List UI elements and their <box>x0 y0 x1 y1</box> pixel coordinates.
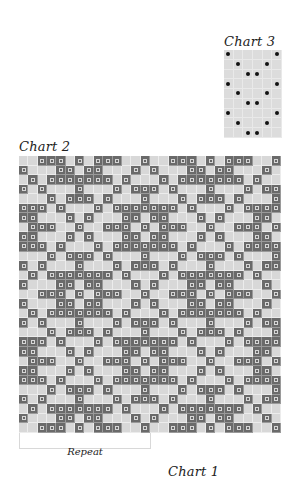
chart-2-cell <box>38 166 47 176</box>
chart-2-symbol-cell <box>56 242 65 252</box>
chart-2-symbol-cell <box>38 423 47 433</box>
chart-2-symbol-cell <box>234 385 243 395</box>
chart-2-symbol-cell <box>178 271 187 281</box>
chart-3-dot-cell <box>272 109 282 119</box>
chart-2-symbol-cell <box>94 299 103 309</box>
chart-2-symbol-cell <box>66 366 75 376</box>
chart-3-dot-cell <box>243 99 253 109</box>
chart-2-symbol-cell <box>197 347 206 357</box>
chart-2-symbol-cell <box>66 252 75 262</box>
chart-2-cell <box>103 414 112 424</box>
chart-2-cell <box>103 376 112 386</box>
chart-2-symbol-cell <box>225 290 234 300</box>
chart-2-cell <box>169 404 178 414</box>
chart-2-symbol-cell <box>75 252 84 262</box>
chart-2-symbol-cell <box>178 385 187 395</box>
chart-2-symbol-cell <box>187 423 196 433</box>
chart-2-cell <box>206 204 215 214</box>
chart-2-cell <box>206 280 215 290</box>
chart-2-symbol-cell <box>206 252 215 262</box>
chart-2-cell <box>122 299 131 309</box>
chart-2-cell <box>234 414 243 424</box>
chart-2-cell <box>272 347 281 357</box>
chart-2-symbol-cell <box>225 376 234 386</box>
chart-2-symbol-cell <box>84 175 93 185</box>
chart-2-cell <box>206 232 215 242</box>
chart-2-cell <box>215 318 224 328</box>
chart-2-cell <box>103 318 112 328</box>
chart-2-symbol-cell <box>262 280 271 290</box>
chart-2-symbol-cell <box>234 156 243 166</box>
chart-2-cell <box>234 185 243 195</box>
chart-2-cell <box>169 328 178 338</box>
chart-2-symbol-cell <box>187 280 196 290</box>
chart-2-cell <box>253 252 262 262</box>
chart-2-cell <box>150 252 159 262</box>
chart-2-cell <box>103 280 112 290</box>
chart-2-symbol-cell <box>84 299 93 309</box>
chart-2-cell <box>47 242 56 252</box>
chart-2-symbol-cell <box>94 175 103 185</box>
chart-2-symbol-cell <box>38 318 47 328</box>
chart-2-symbol-cell <box>169 223 178 233</box>
chart-2-symbol-cell <box>47 328 56 338</box>
chart-2-cell <box>272 414 281 424</box>
chart-2-symbol-cell <box>159 366 168 376</box>
chart-3-cell <box>234 70 244 80</box>
chart-2-cell <box>122 318 131 328</box>
chart-2-symbol-cell <box>38 185 47 195</box>
chart-2-symbol-cell <box>75 404 84 414</box>
chart-2-symbol-cell <box>66 299 75 309</box>
chart-2-cell <box>19 290 28 300</box>
chart-2-symbol-cell <box>141 242 150 252</box>
chart-2-symbol-cell <box>187 376 196 386</box>
chart-2-symbol-cell <box>103 290 112 300</box>
chart-2-cell <box>28 290 37 300</box>
repeat-label: Repeat <box>19 446 151 457</box>
chart-2-symbol-cell <box>234 404 243 414</box>
chart-2-symbol-cell <box>38 376 47 386</box>
chart-2-symbol-cell <box>75 194 84 204</box>
chart-2-cell <box>150 290 159 300</box>
chart-2-symbol-cell <box>178 194 187 204</box>
chart-2-cell <box>225 318 234 328</box>
chart-2-cell <box>113 175 122 185</box>
chart-2-symbol-cell <box>215 271 224 281</box>
chart-3-cell <box>234 128 244 138</box>
chart-2-symbol-cell <box>187 299 196 309</box>
chart-2-cell <box>234 166 243 176</box>
chart-2-symbol-cell <box>272 185 281 195</box>
chart-2-cell <box>159 299 168 309</box>
chart-2-cell <box>178 414 187 424</box>
chart-2-cell <box>215 223 224 233</box>
chart-2-symbol-cell <box>19 337 28 347</box>
chart-2-cell <box>131 223 140 233</box>
chart-2-cell <box>159 414 168 424</box>
chart-2-symbol-cell <box>103 423 112 433</box>
chart-2-symbol-cell <box>206 404 215 414</box>
chart-2-cell <box>122 385 131 395</box>
chart-2-cell <box>244 252 253 262</box>
chart-2-cell <box>66 242 75 252</box>
chart-2-symbol-cell <box>84 213 93 223</box>
chart-2-symbol-cell <box>215 309 224 319</box>
chart-2-symbol-cell <box>215 252 224 262</box>
chart-2-cell <box>225 385 234 395</box>
chart-2-cell <box>159 395 168 405</box>
chart-2-cell <box>244 280 253 290</box>
chart-2-cell <box>66 290 75 300</box>
chart-2-cell <box>141 366 150 376</box>
chart-3-cell <box>224 89 234 99</box>
chart-2-cell <box>94 185 103 195</box>
chart-2-cell <box>169 309 178 319</box>
chart-2-symbol-cell <box>47 223 56 233</box>
chart-2-cell <box>197 318 206 328</box>
chart-2-cell <box>122 166 131 176</box>
chart-2-cell <box>94 252 103 262</box>
chart-2-symbol-cell <box>56 337 65 347</box>
chart-2-cell <box>47 318 56 328</box>
chart-2-cell <box>225 252 234 262</box>
chart-2-cell <box>253 290 262 300</box>
chart-2-cell <box>84 204 93 214</box>
chart-2-cell <box>28 280 37 290</box>
